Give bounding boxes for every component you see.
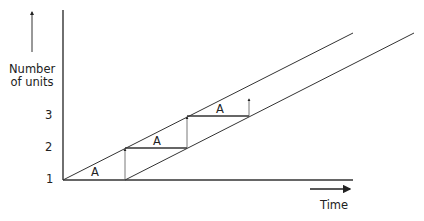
lower-diagonal-line	[125, 33, 414, 180]
step-label-a-2: A	[153, 135, 161, 148]
step-label-a-3: A	[216, 103, 224, 116]
y-axis-label-line2: of units	[9, 76, 55, 89]
step-label-a-1: A	[91, 166, 99, 179]
diagram-canvas	[0, 0, 424, 221]
diagram: Number of units 1 2 3 A A A Time	[0, 0, 424, 221]
y-tick-2: 2	[45, 141, 52, 154]
x-axis-label: Time	[320, 199, 348, 212]
y-tick-1: 1	[46, 173, 53, 186]
y-axis-label: Number of units	[9, 63, 55, 89]
y-tick-3: 3	[45, 109, 52, 122]
upper-diagonal-line	[63, 33, 353, 180]
